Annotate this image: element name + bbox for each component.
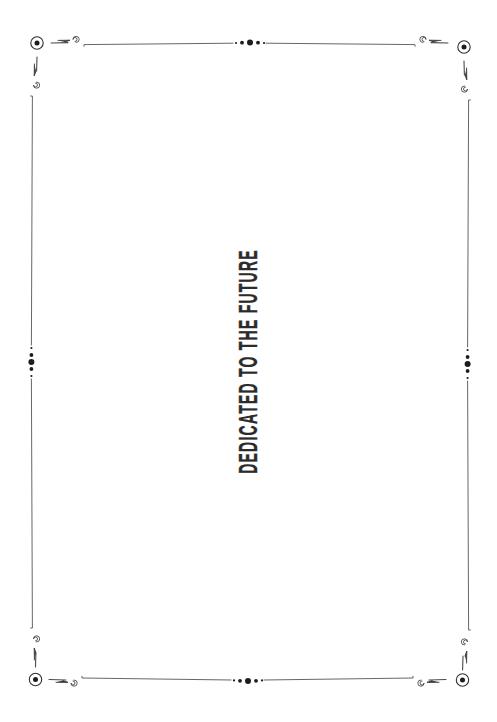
dedication-page: DEDICATED TO THE FUTURE: [0, 0, 497, 722]
ornament-dots-left-center: [28, 347, 34, 377]
ornament-dots-top-center: [235, 40, 265, 46]
corner-ornament-top-left: [31, 37, 43, 49]
ornament-dots-right-center: [465, 349, 471, 379]
ornament-dots-bottom-center: [233, 678, 263, 684]
corner-ornament-top-right: [458, 41, 470, 53]
corner-ornament-bottom-right: [456, 674, 468, 686]
corner-ornament-bottom-left: [29, 673, 41, 685]
decorative-page-border: [0, 0, 497, 722]
